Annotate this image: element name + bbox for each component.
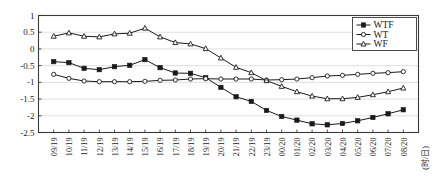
x-axis-tick-label: 23/19 — [263, 138, 272, 157]
x-axis-title: (时/日) — [420, 146, 430, 170]
legend-marker-wt — [361, 32, 365, 36]
x-axis-tick-label: 17/19 — [172, 138, 181, 157]
x-axis-tick-label: 00/20 — [278, 138, 287, 157]
x-axis-tick-label: 13/19 — [111, 138, 120, 157]
x-axis-tick-label: 21/19 — [232, 138, 241, 157]
y-axis-tick-label: -1 — [27, 77, 35, 87]
x-axis-tick-label: 08/20 — [400, 138, 409, 157]
y-axis-tick-label: -1.5 — [20, 94, 35, 104]
y-axis-tick-label: -0.5 — [20, 61, 35, 71]
x-axis-tick-label: 12/19 — [96, 138, 105, 157]
legend-label-wf: WF — [374, 39, 388, 49]
x-axis-tick-label: 05/20 — [354, 138, 363, 157]
x-axis-tick-labels: 09/1910/1911/1912/1913/1914/1915/1916/19… — [50, 138, 409, 157]
x-axis-tick-label: 04/20 — [339, 138, 348, 157]
x-axis-tick-label: 03/20 — [324, 138, 333, 157]
y-axis-tick-label: 0 — [30, 44, 35, 54]
x-axis-tick-label: 20/19 — [217, 138, 226, 157]
y-axis-tick-label: -2.5 — [20, 128, 35, 138]
y-axis-tick-label: -2 — [27, 111, 35, 121]
series-lines — [54, 28, 404, 125]
series-line-wf — [54, 28, 404, 99]
x-axis-tick-label: 10/19 — [65, 138, 74, 157]
x-axis-tick-label: 11/19 — [80, 138, 89, 156]
y-axis-tick-label: 1 — [30, 11, 35, 21]
x-axis-tick-label: 07/20 — [384, 138, 393, 157]
y-axis-tick-labels: 10.50-0.5-1-1.5-2-2.5 — [20, 11, 35, 138]
y-axis-tick-label: 0.5 — [23, 27, 35, 37]
x-axis-tick-label: 06/20 — [369, 138, 378, 157]
legend-marker-wtf — [361, 23, 365, 27]
legend: WTFWTWF — [353, 18, 417, 51]
x-axis-tick-label: 09/19 — [50, 138, 59, 157]
x-axis-tick-label: 15/19 — [141, 138, 150, 157]
series-line-wt — [54, 72, 404, 82]
x-axis-tick-label: 01/20 — [293, 138, 302, 157]
legend-label-wtf: WTF — [374, 20, 394, 30]
legend-label-wt: WT — [374, 30, 389, 40]
chart-figure: 10.50-0.5-1-1.5-2-2.5 09/1910/1911/1912/… — [0, 0, 441, 181]
series-line-wtf — [54, 60, 404, 125]
x-axis-tick-label: 19/19 — [202, 138, 211, 157]
x-axis-tick-label: 16/19 — [156, 138, 165, 157]
line-chart: 10.50-0.5-1-1.5-2-2.5 09/1910/1911/1912/… — [0, 0, 441, 181]
x-axis-tick-label: 18/19 — [187, 138, 196, 157]
x-axis-tick-label: 02/20 — [308, 138, 317, 157]
x-axis-tick-label: 14/19 — [126, 138, 135, 157]
x-axis-tick-label: 22/19 — [248, 138, 257, 157]
